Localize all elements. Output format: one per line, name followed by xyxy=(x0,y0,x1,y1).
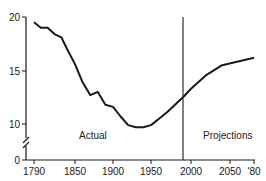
line-chart: 20 15 10 0 1790 1850 1900 1950 2000 2050… xyxy=(0,0,266,181)
x-tick-label: 2000 xyxy=(180,166,203,177)
y-tick-label: 10 xyxy=(9,119,21,130)
y-tick-label: 0 xyxy=(14,155,20,166)
x-tick-label: 2050 xyxy=(219,166,242,177)
x-tick-label: '80 xyxy=(247,166,260,177)
x-tick-label: 1950 xyxy=(140,166,163,177)
x-tick-label: 1790 xyxy=(23,166,46,177)
x-tick-label: 1900 xyxy=(102,166,125,177)
y-tick-label: 15 xyxy=(9,66,21,77)
actual-series-line xyxy=(34,22,183,127)
y-tick-label: 20 xyxy=(9,12,21,23)
x-tick-label: 1850 xyxy=(64,166,87,177)
projection-series-line xyxy=(183,58,254,98)
actual-label: Actual xyxy=(79,130,107,141)
projections-label: Projections xyxy=(203,130,252,141)
